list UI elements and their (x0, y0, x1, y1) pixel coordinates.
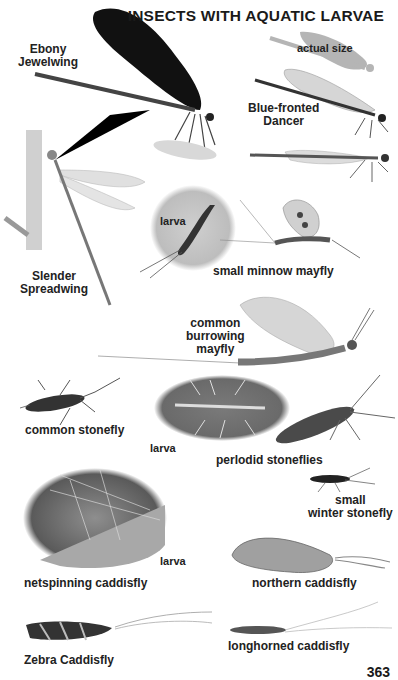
label-line: winter stonefly (308, 507, 393, 520)
small-minnow-mayfly-image (220, 200, 360, 258)
page-number: 363 (367, 664, 390, 680)
small-minnow-mayfly-label: small minnow mayfly (213, 265, 334, 278)
zebra-caddisfly-image (26, 612, 212, 640)
slender-spreadwing-label: Slender Spreadwing (20, 270, 88, 296)
label-line: Dancer (248, 115, 319, 128)
common-burrowing-mayfly-label: common burrowing mayfly (186, 317, 245, 356)
blue-fronted-dancer-label: Blue-fronted Dancer (248, 102, 319, 128)
netspinning-larva-label: larva (160, 555, 186, 568)
label-line: mayfly (186, 343, 245, 356)
perlodid-stonefly-image (272, 375, 395, 450)
northern-caddisfly-label: northern caddisfly (252, 577, 357, 590)
page-title: INSECTS WITH AQUATIC LARVAE (128, 7, 384, 25)
actual-size-label: actual size (297, 42, 353, 55)
perlodid-larva-label: larva (150, 442, 176, 455)
northern-caddisfly-image (232, 538, 390, 572)
ebony-jewelwing-label: Ebony Jewelwing (18, 43, 78, 69)
perlodid-stoneflies-label: perlodid stoneflies (216, 454, 323, 467)
mayfly-larva-label: larva (160, 215, 186, 228)
ebony-jewelwing-image (35, 9, 218, 164)
small-winter-stonefly-label: small winter stonefly (308, 494, 393, 520)
perlodid-larva-oval (154, 375, 290, 441)
longhorned-caddisfly-image (230, 602, 392, 634)
common-stonefly-image (20, 378, 120, 425)
small-winter-stonefly-image (310, 468, 375, 492)
netspinning-larva-oval (23, 468, 167, 568)
label-line: Spreadwing (20, 283, 88, 296)
netspinning-caddisfly-label: netspinning caddisfly (24, 577, 147, 590)
dancer-female-image (250, 150, 389, 182)
label-line: Jewelwing (18, 56, 78, 69)
longhorned-caddisfly-label: longhorned caddisfly (228, 640, 349, 653)
common-stonefly-label: common stonefly (25, 424, 124, 437)
zebra-caddisfly-label: Zebra Caddisfly (24, 654, 114, 667)
